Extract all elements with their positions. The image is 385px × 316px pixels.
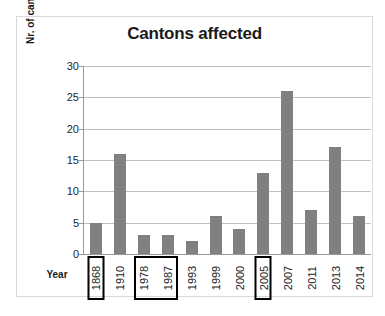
y-tick-label: 25 <box>45 91 79 103</box>
gridline <box>84 160 371 161</box>
x-tick-label-wrap: 1910 <box>111 256 128 300</box>
x-tick-label-cell: 2014 <box>347 255 371 301</box>
x-tick-label: 1910 <box>114 266 126 290</box>
highlight-box: 2005 <box>255 256 272 300</box>
x-tick-label-cell: 2007 <box>275 255 299 301</box>
x-tick-label-cell: 2011 <box>299 255 323 301</box>
bar <box>162 235 174 254</box>
bar <box>281 91 293 254</box>
bar <box>90 223 102 254</box>
x-tick-label-cell: 1999 <box>204 255 228 301</box>
x-tick-label: 1993 <box>186 266 198 290</box>
plot-area <box>84 66 371 254</box>
bar <box>305 210 317 254</box>
gridline <box>84 129 371 130</box>
x-tick-label-cell: 1868 <box>84 255 108 301</box>
x-tick-label-cell: 2005 <box>251 255 275 301</box>
bar <box>114 154 126 254</box>
x-tick-label-wrap: 2013 <box>327 256 344 300</box>
y-tick-label: 0 <box>45 248 79 260</box>
x-tick-label-cell: 2000 <box>228 255 252 301</box>
chart-frame: Cantons affected Nr. of cantons affected… <box>16 16 373 297</box>
gridline <box>84 223 371 224</box>
bar <box>138 235 150 254</box>
y-tick-label: 30 <box>45 60 79 72</box>
x-tick-label: 2014 <box>353 266 365 290</box>
x-tick-label-wrap: 2007 <box>279 256 296 300</box>
y-tick-label: 10 <box>45 185 79 197</box>
x-tick-label-wrap: 1999 <box>207 256 224 300</box>
bar <box>233 229 245 254</box>
x-tick-label: 2011 <box>305 266 317 290</box>
x-tick-label: 2007 <box>281 266 293 290</box>
gridline <box>84 66 371 67</box>
bar <box>257 173 269 254</box>
x-tick-label-cell: 2013 <box>323 255 347 301</box>
x-tick-label: 2000 <box>233 266 245 290</box>
y-tick-label: 20 <box>45 123 79 135</box>
x-tick-label: 2013 <box>329 266 341 290</box>
y-tick-label: 15 <box>45 154 79 166</box>
x-tick-label-cell: 1910 <box>108 255 132 301</box>
gridline <box>84 97 371 98</box>
bar <box>353 216 365 254</box>
x-tick-label: 1868 <box>90 266 102 290</box>
x-axis-tick-labels: 1868191019781987199319992000200520072011… <box>84 255 371 303</box>
x-tick-label-cell: 1993 <box>180 255 204 301</box>
y-tick-label: 5 <box>45 217 79 229</box>
bar <box>210 216 222 254</box>
x-tick-label: 2005 <box>257 266 269 290</box>
x-tick-label: 1999 <box>210 266 222 290</box>
y-axis-tick-labels: 051015202530 <box>41 66 79 254</box>
y-axis-title: Nr. of cantons affected <box>22 0 40 84</box>
bar <box>186 241 198 254</box>
x-tick-label-wrap: 1993 <box>183 256 200 300</box>
x-tick-label-wrap: 2011 <box>303 256 320 300</box>
highlight-box-group <box>134 256 178 300</box>
chart-title: Cantons affected <box>17 24 372 44</box>
gridline <box>84 191 371 192</box>
x-axis-title: Year <box>33 269 81 280</box>
x-tick-label-wrap: 2000 <box>231 256 248 300</box>
bar <box>329 147 341 254</box>
highlight-box: 1868 <box>87 256 104 300</box>
x-tick-label-wrap: 2014 <box>351 256 368 300</box>
